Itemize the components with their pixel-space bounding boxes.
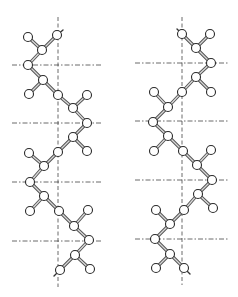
backbone-atom-icon <box>83 119 92 128</box>
side-atom-icon <box>207 88 216 97</box>
side-atom-icon <box>86 265 95 274</box>
backbone-atom-icon <box>180 206 189 215</box>
backbone-atom-icon <box>164 132 173 141</box>
backbone-atom-icon <box>54 148 63 157</box>
backbone-atom-icon <box>178 88 187 97</box>
backbone-atom-icon <box>166 250 175 259</box>
backbone-atom-icon <box>69 104 78 113</box>
backbone-atom-icon <box>70 222 79 231</box>
backbone-atom-icon <box>164 103 173 112</box>
backbone-atom-icon <box>71 251 80 260</box>
backbone-atom-icon <box>192 73 201 82</box>
backbone-atom-icon <box>85 236 94 245</box>
backbone-atom-icon <box>54 91 63 100</box>
backbone-atom-icon <box>39 76 48 85</box>
backbone-atom-icon <box>56 266 65 275</box>
left-chain <box>12 17 103 287</box>
side-atom-icon <box>24 33 33 42</box>
backbone-atom-icon <box>69 133 78 142</box>
side-atom-icon <box>84 206 93 215</box>
backbone-atom-icon <box>180 264 189 273</box>
side-atom-icon <box>150 147 159 156</box>
backbone-atom-icon <box>192 44 201 53</box>
backbone-atom-icon <box>149 118 158 127</box>
side-atom-icon <box>152 206 161 215</box>
backbone-atom-icon <box>166 220 175 229</box>
backbone-atom-icon <box>26 178 35 187</box>
helix-diagram <box>0 0 238 297</box>
backbone-atom-icon <box>55 207 64 216</box>
side-atom-icon <box>207 146 216 155</box>
backbone-atom-icon <box>179 147 188 156</box>
right-chain <box>135 17 228 285</box>
side-atom-icon <box>26 207 35 216</box>
side-atom-icon <box>83 147 92 156</box>
backbone-atom-icon <box>40 162 49 171</box>
backbone-atom-icon <box>178 30 187 39</box>
backbone-atom-icon <box>193 161 202 170</box>
backbone-atom-icon <box>24 61 33 70</box>
backbone-atom-icon <box>151 235 160 244</box>
side-atom-icon <box>25 90 34 99</box>
backbone-atom-icon <box>40 192 49 201</box>
side-atom-icon <box>83 91 92 100</box>
side-atom-icon <box>152 264 161 273</box>
side-atom-icon <box>209 204 218 213</box>
backbone-atom-icon <box>53 31 62 40</box>
side-atom-icon <box>150 88 159 97</box>
backbone-atom-icon <box>208 176 217 185</box>
backbone-atom-icon <box>38 46 47 55</box>
backbone-atom-icon <box>207 59 216 68</box>
side-atom-icon <box>25 149 34 158</box>
side-atom-icon <box>206 30 215 39</box>
backbone-atom-icon <box>194 190 203 199</box>
